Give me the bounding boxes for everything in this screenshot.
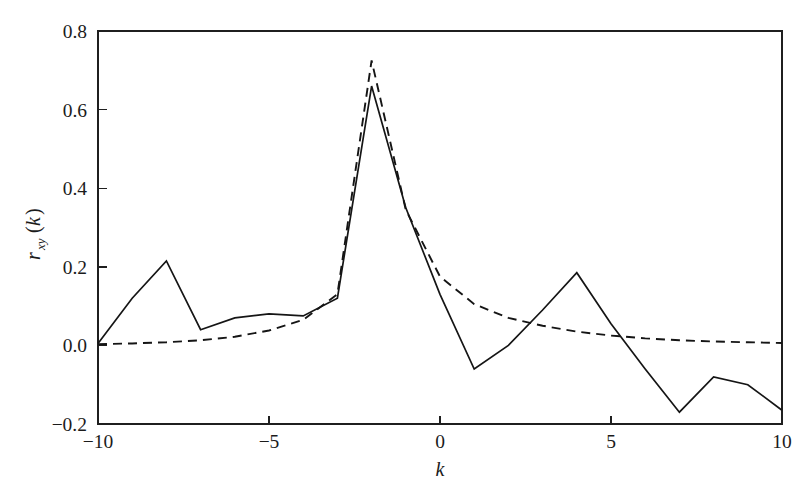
y-axis-title-subscript: xy xyxy=(33,238,48,251)
y-tick-label: 0.0 xyxy=(63,335,87,356)
y-axis-title-paren-close: ) xyxy=(22,208,45,215)
y-tick-label: 0.2 xyxy=(63,257,87,278)
x-axis-ticks xyxy=(98,416,782,424)
y-tick-label: 0.6 xyxy=(63,100,88,121)
y-axis-title-argument: k xyxy=(22,216,44,226)
x-tick-label: −10 xyxy=(83,431,114,452)
plot-frame xyxy=(98,31,782,424)
x-tick-label: 5 xyxy=(606,431,616,452)
y-axis-tick-labels: −0.20.00.20.40.60.8 xyxy=(52,21,88,435)
y-axis-title-base: r xyxy=(22,252,44,260)
y-tick-label: −0.2 xyxy=(52,414,87,435)
series-theoretical-cross-correlation xyxy=(98,60,782,344)
cross-correlation-chart: −10−50510 −0.20.00.20.40.60.8 k r xy ( k… xyxy=(0,0,808,494)
y-axis-title: r xy ( k ) xyxy=(22,208,48,260)
x-tick-label: 10 xyxy=(772,431,792,452)
x-tick-label: 0 xyxy=(435,431,445,452)
y-axis-ticks xyxy=(98,31,107,424)
x-axis-title: k xyxy=(436,458,446,480)
x-tick-label: −5 xyxy=(259,431,280,452)
data-series-group xyxy=(98,60,782,412)
x-axis-tick-labels: −10−50510 xyxy=(83,431,792,452)
y-tick-label: 0.4 xyxy=(63,178,88,199)
y-axis-title-paren-open: ( xyxy=(22,226,45,233)
y-tick-label: 0.8 xyxy=(63,21,87,42)
series-estimated-cross-correlation xyxy=(98,86,782,412)
figure-container: −10−50510 −0.20.00.20.40.60.8 k r xy ( k… xyxy=(0,0,808,494)
